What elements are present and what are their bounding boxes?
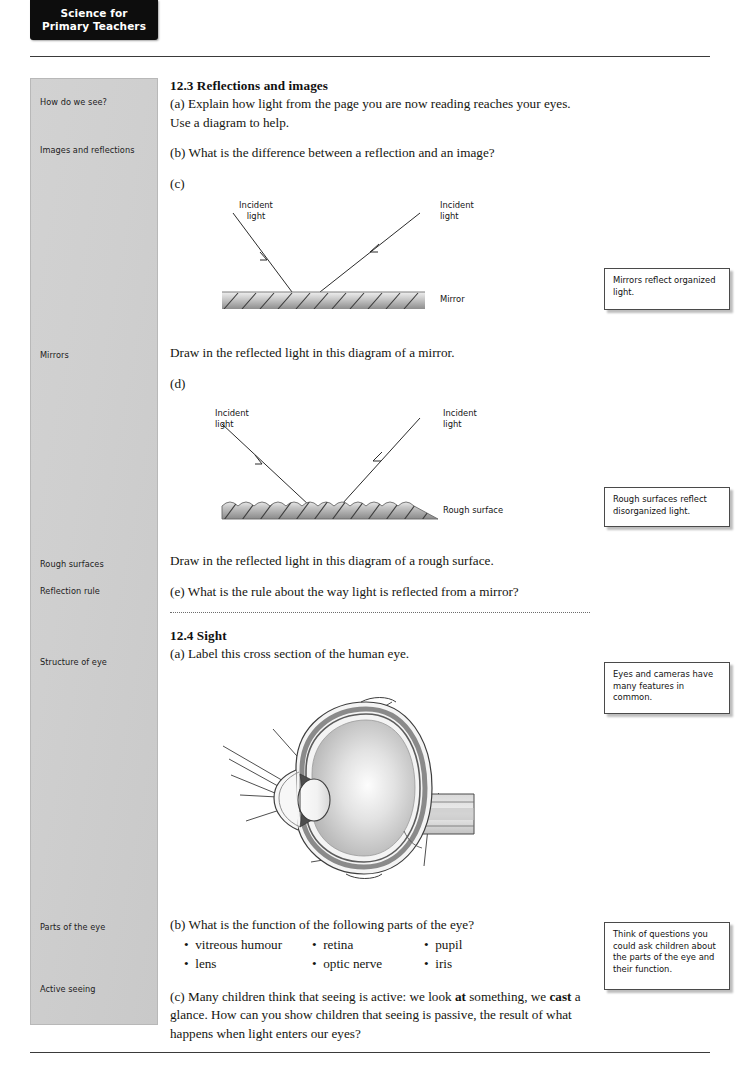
list-item: retina [323,937,353,952]
list-item: optic nerve [323,956,382,971]
header-divider-rule [30,56,710,57]
q-c-emphasis-cast: cast [549,989,571,1004]
lens-shape [298,779,330,821]
cornea-outline [274,770,298,830]
sidebar-item-rough-surfaces: Rough surfaces [40,559,104,569]
book-title-line2: Primary Teachers [42,20,146,33]
instruction-draw-mirror: Draw in the reflected light in this diag… [170,344,590,363]
q-c-part2: something, we [466,989,550,1004]
sidebar-item-parts-of-the-eye: Parts of the eye [40,922,105,932]
rough-surface-label: Rough surface [443,505,503,516]
sidebar-item-images-and-reflections: Images and reflections [40,145,134,155]
question-12-3-b: (b) What is the difference between a ref… [170,144,590,163]
q-c-part1: (c) Many children think that seeing is a… [170,989,455,1004]
note-text: Mirrors reflect organized light. [613,275,722,298]
rough-incident-light-label-left: Incident light [215,408,249,430]
note-rough-surfaces-reflect-disorganized-light: Rough surfaces reflect disorganized ligh… [604,487,730,527]
note-think-of-questions: Think of questions you could ask childre… [604,922,730,990]
note-text: Think of questions you could ask childre… [613,929,722,975]
rough-incident-light-label-right: Incident light [443,408,477,430]
bullet-icon: • [424,937,435,952]
human-eye-cross-section-diagram [196,688,496,898]
section-12-4-heading: 12.4 Sight [170,628,590,644]
worksheet-page: Science for Primary Teachers How do we s… [0,0,740,1072]
question-12-3-e: (e) What is the rule about the way light… [170,583,590,602]
sidebar-item-structure-of-eye: Structure of eye [40,657,107,667]
book-title-tab: Science for Primary Teachers [30,0,158,40]
question-12-3-a: (a) Explain how light from the page you … [170,95,590,132]
sidebar-item-reflection-rule: Reflection rule [40,586,100,596]
list-item: iris [435,956,452,971]
instruction-draw-rough-surface: Draw in the reflected light in this diag… [170,552,590,571]
rough-surface-reflection-diagram: Incident light Incident light Rough surf… [170,400,590,530]
note-text: Eyes and cameras have many features in c… [613,669,722,704]
bullet-icon: • [312,956,323,971]
question-12-4-c: (c) Many children think that seeing is a… [170,988,590,1044]
list-row: • lens • optic nerve • iris [184,954,462,974]
rough-caption-block: Draw in the reflected light in this diag… [170,552,590,601]
list-item: lens [195,956,216,971]
eye-parts-list: • vitreous humour • retina • pupil • len… [184,935,462,974]
mirror-caption-block: Draw in the reflected light in this diag… [170,344,590,393]
note-text: Rough surfaces reflect disorganized ligh… [613,494,722,517]
mirror-reflection-diagram: Incident light Incident light Mirror [170,190,590,320]
list-row: • vitreous humour • retina • pupil [184,935,462,955]
question-12-4-a: (a) Label this cross section of the huma… [170,645,590,664]
section-12-3-block: 12.3 Reflections and images (a) Explain … [170,78,590,193]
section-12-4-block: 12.4 Sight (a) Label this cross section … [170,628,590,664]
bullet-icon: • [184,956,195,971]
mirror-surface-label: Mirror [440,294,465,305]
question-12-3-d-marker: (d) [170,375,590,394]
sidebar-item-active-seeing: Active seeing [40,984,96,994]
q-c-emphasis-at: at [455,989,466,1004]
sidebar-item-how-do-we-see: How do we see? [40,97,107,107]
eye-diagram-svg [196,688,496,898]
list-item: pupil [435,937,462,952]
note-mirrors-reflect-organized-light: Mirrors reflect organized light. [604,268,730,310]
mirror-incident-light-label-right: Incident light [440,200,474,222]
topic-sidebar: How do we see? Images and reflections Mi… [30,78,158,1025]
section-12-4-questions-block: (b) What is the function of the followin… [170,916,590,1043]
note-eyes-and-cameras: Eyes and cameras have many features in c… [604,662,730,714]
bullet-icon: • [184,937,195,952]
mirror-incident-light-label-left: Incident light [226,200,286,222]
section-divider-dotted [170,612,590,613]
bullet-icon: • [424,956,435,971]
sidebar-item-mirrors: Mirrors [40,350,69,360]
book-title-line1: Science for [60,7,127,20]
footer-rule [30,1052,710,1053]
question-12-4-b: (b) What is the function of the followin… [170,916,590,935]
section-12-3-heading: 12.3 Reflections and images [170,78,590,94]
list-item: vitreous humour [195,937,282,952]
bullet-icon: • [312,937,323,952]
